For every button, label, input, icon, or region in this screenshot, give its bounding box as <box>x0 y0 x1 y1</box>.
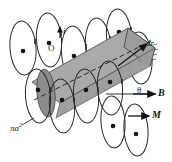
label-origin: O <box>48 44 55 53</box>
magnetized-cylinder-slab <box>32 28 158 118</box>
cross-section-exponent: 2 <box>19 122 22 128</box>
current-loop <box>8 20 38 76</box>
figure-magnetized-cylinder: i O dr θ B M πa2 <box>0 0 172 162</box>
cross-section-leader <box>22 118 34 125</box>
label-current: i <box>63 27 66 36</box>
current-direction-dot <box>108 80 113 85</box>
label-field-B: B <box>158 88 165 98</box>
label-cross-section: πa2 <box>10 122 22 133</box>
current-direction-dot <box>111 124 116 129</box>
current-loop <box>99 95 127 149</box>
cross-section-base: πa <box>10 123 19 133</box>
current-loop <box>35 12 64 68</box>
current-loop <box>122 103 150 157</box>
current-direction-dot <box>36 88 41 93</box>
diagram-canvas <box>0 0 172 162</box>
label-angle-theta: θ <box>137 86 141 95</box>
current-direction-dot <box>21 49 26 54</box>
label-thickness-dr: dr <box>146 39 154 48</box>
label-magnetization-M: M <box>152 110 161 120</box>
current-direction-dot <box>134 132 139 137</box>
current-direction-dot <box>60 98 65 103</box>
current-direction-dot <box>84 88 89 93</box>
